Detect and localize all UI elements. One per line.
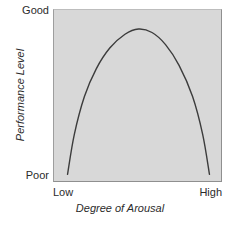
performance-curve	[54, 10, 223, 183]
y-axis-title: Performance Level	[14, 30, 26, 160]
x-axis-left-label: Low	[53, 186, 73, 198]
inverted-u-curve-path	[68, 29, 210, 174]
y-axis-top-label: Good	[0, 4, 49, 16]
chart-figure: Good Poor Low High Performance Level Deg…	[0, 0, 234, 226]
x-axis-title: Degree of Arousal	[20, 202, 220, 214]
y-axis-bottom-label: Poor	[0, 169, 49, 181]
x-axis-right-label: High	[122, 186, 222, 198]
plot-area	[53, 9, 222, 182]
